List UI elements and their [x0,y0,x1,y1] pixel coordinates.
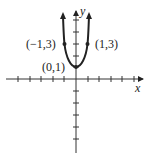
y-axis-label: y [79,4,86,18]
point-neg1-3 [63,42,67,46]
point-0-1 [74,65,78,69]
curve-arrow-left-icon [60,12,66,19]
point-label-0-1: (0,1) [42,60,65,74]
x-axis-label: x [134,81,141,95]
point-1-3 [86,42,90,46]
point-label-1-3: (1,3) [95,37,118,51]
graph: (−1,3) (0,1) (1,3) y x [0,0,146,155]
point-label-neg1-3: (−1,3) [26,37,56,51]
curve-arrow-right-icon [86,12,92,19]
